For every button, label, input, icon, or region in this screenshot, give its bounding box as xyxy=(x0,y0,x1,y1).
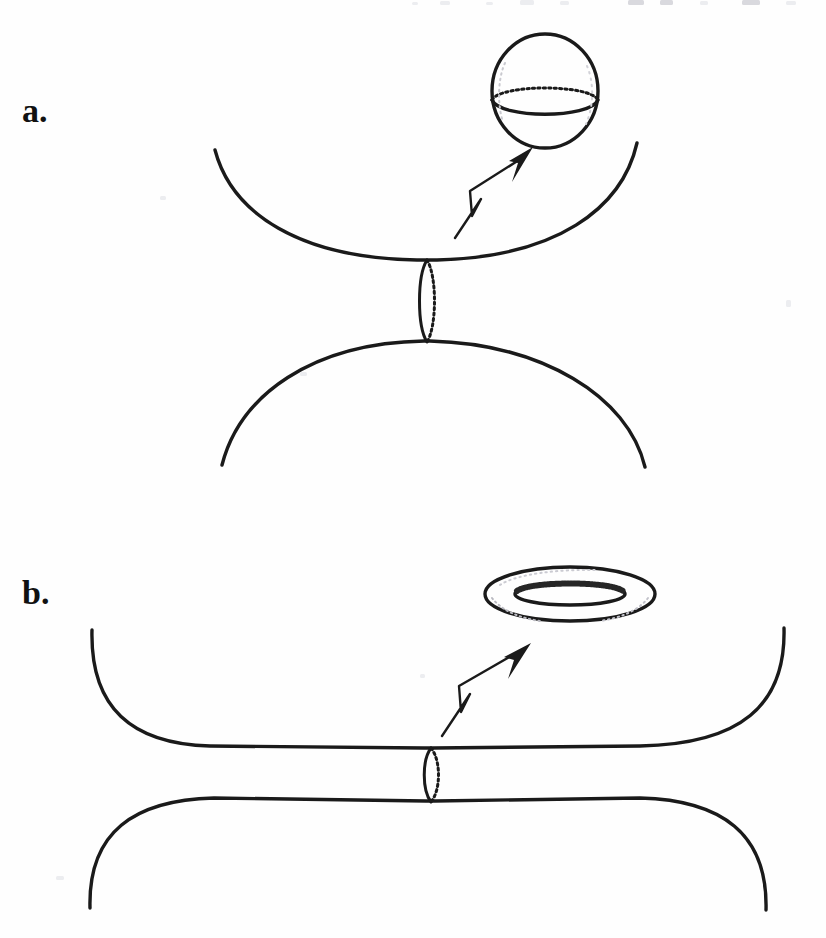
arrow-b-head xyxy=(504,643,531,679)
panel-a-label: a. xyxy=(22,92,48,129)
neck-tube-icon-a xyxy=(420,260,435,342)
panel-b: b. xyxy=(22,567,784,910)
torus-icon xyxy=(485,567,655,621)
neck-a-back xyxy=(427,260,435,342)
neck-b-back xyxy=(431,748,439,802)
panel-b-label: b. xyxy=(22,574,49,611)
sphere-icon xyxy=(492,34,598,148)
panel-b-lower-surface xyxy=(90,798,766,910)
torus-hole-rim-shading xyxy=(517,584,623,592)
callout-arrow-icon-a xyxy=(455,147,533,238)
figure-root: a. xyxy=(0,0,826,938)
arrow-b-shaft xyxy=(442,655,513,736)
sphere-equator-back xyxy=(492,88,598,100)
scan-artifacts-top xyxy=(412,0,796,5)
panel-a-lower-surface xyxy=(222,341,645,467)
neck-tube-icon-b xyxy=(424,748,438,802)
callout-arrow-icon-b xyxy=(442,643,531,736)
arrow-a-shaft xyxy=(455,160,519,238)
neck-a-front xyxy=(420,260,428,342)
panel-b-upper-surface xyxy=(92,628,784,748)
sphere-equator-front xyxy=(492,100,598,114)
neck-b-front xyxy=(424,748,431,802)
panel-a: a. xyxy=(22,34,645,467)
panel-a-upper-surface xyxy=(215,143,637,260)
figure-canvas: a. xyxy=(0,0,826,938)
